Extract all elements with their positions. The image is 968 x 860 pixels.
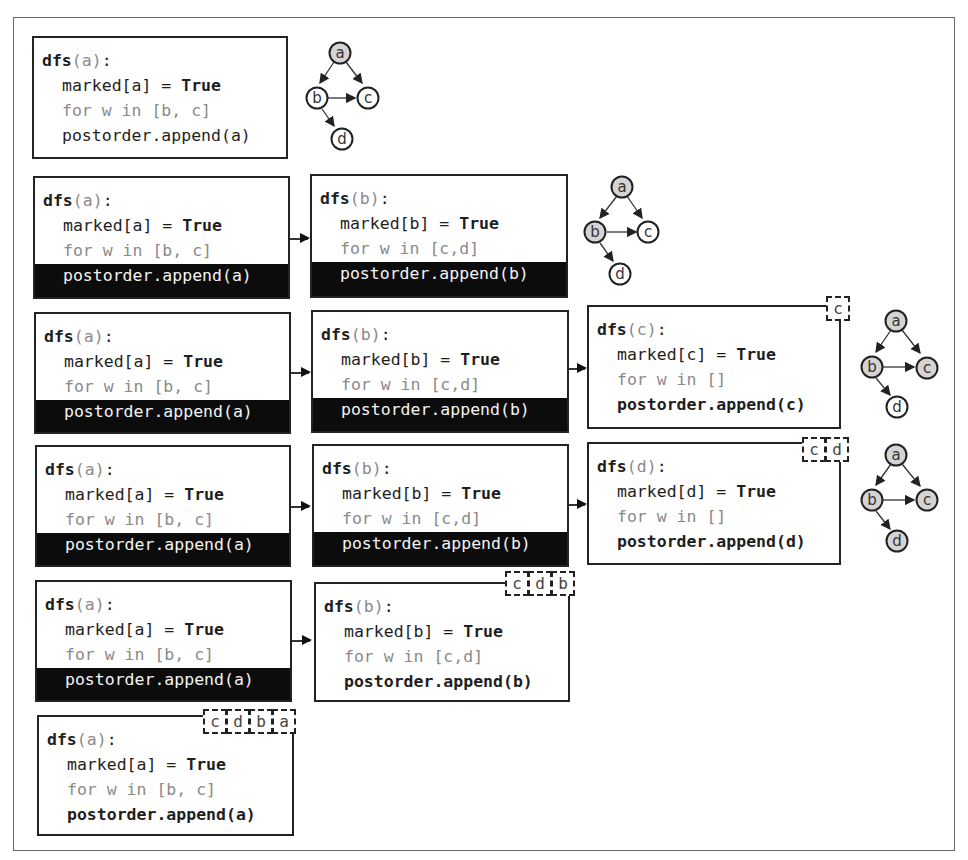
postorder-stack-r3: c — [827, 296, 850, 321]
graph-r4: a b c d — [850, 440, 950, 560]
call-arrow-icon — [290, 238, 308, 240]
dfs-frame-r3-b: dfs(b): marked[b] = True for w in [c,d] … — [311, 310, 569, 433]
fn-name: dfs — [42, 51, 72, 70]
svg-text:d: d — [337, 130, 347, 148]
svg-text:a: a — [617, 178, 626, 196]
svg-text:c: c — [644, 223, 652, 241]
dfs-frame-r2-a: dfs(a): marked[a] = True for w in [b, c]… — [33, 176, 290, 299]
graph-r2: a b c d — [575, 172, 675, 292]
dfs-frame-r2-b: dfs(b): marked[b] = True for w in [c,d] … — [310, 174, 568, 298]
svg-text:d: d — [892, 398, 902, 416]
dfs-frame-r1-a: dfs(a): marked[a] = True for w in [b, c]… — [32, 36, 288, 159]
svg-text:b: b — [312, 89, 322, 107]
for-loop-line: for w in [b, c] — [62, 98, 211, 123]
dfs-frame-r3-a: dfs(a): marked[a] = True for w in [b, c]… — [34, 312, 291, 434]
call-arrow-icon — [292, 640, 310, 642]
dfs-frame-r4-b: dfs(b): marked[b] = True for w in [c,d] … — [312, 444, 569, 567]
svg-text:c: c — [923, 491, 931, 509]
dfs-frame-r5-a: dfs(a): marked[a] = True for w in [b, c]… — [35, 580, 292, 702]
dfs-frame-r4-a: dfs(a): marked[a] = True for w in [b, c]… — [35, 445, 291, 567]
svg-text:d: d — [615, 265, 625, 283]
graph-r1: a b c d — [300, 36, 400, 156]
call-arrow-icon — [569, 368, 585, 370]
postorder-cell: c — [826, 296, 850, 321]
svg-text:a: a — [891, 446, 900, 464]
svg-text:a: a — [335, 44, 344, 62]
postorder-stack-r4: c d — [803, 437, 849, 462]
call-arrow-icon — [291, 506, 309, 508]
call-arrow-icon — [569, 504, 585, 506]
svg-text:c: c — [923, 359, 931, 377]
postorder-stack-r5: c d b — [506, 571, 575, 596]
svg-text:a: a — [891, 312, 900, 330]
graph-r3: a b c d — [850, 306, 950, 426]
append-line: postorder.append(a) — [62, 123, 251, 148]
svg-text:b: b — [867, 491, 877, 509]
svg-text:c: c — [364, 89, 372, 107]
svg-text:b: b — [867, 358, 877, 376]
dfs-frame-r5-b: dfs(b): marked[b] = True for w in [c,d] … — [314, 582, 570, 702]
call-arrow-icon — [291, 372, 309, 374]
postorder-stack-r6: c d b a — [204, 709, 296, 734]
svg-text:d: d — [892, 532, 902, 550]
dfs-frame-r3-c: dfs(c): marked[c] = True for w in [] pos… — [587, 305, 841, 429]
svg-text:b: b — [590, 223, 600, 241]
